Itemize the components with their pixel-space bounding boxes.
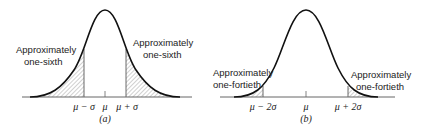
- panel-b: Approximately one-fortieth Approximately…: [213, 10, 411, 125]
- tick-mu-minus-sigma: μ − σ: [72, 101, 96, 112]
- tick-mu-plus-sigma: μ + σ: [115, 101, 139, 112]
- normal-distribution-figure: Approximately one-sixth Approximately on…: [0, 0, 425, 131]
- annotation-right-line2: one-sixth: [143, 49, 182, 60]
- annotation-right-line1: Approximately: [133, 37, 193, 48]
- caption-a: (a): [99, 113, 111, 125]
- annotation-right-line1: Approximately: [351, 69, 411, 80]
- panel-a: Approximately one-sixth Approximately on…: [16, 10, 193, 125]
- tick-mu-plus-2sigma: μ + 2σ: [334, 101, 363, 112]
- tick-mu: μ: [101, 101, 107, 112]
- annotation-left-line2: one-fortieth: [213, 79, 261, 90]
- annotation-right-line2: one-fortieth: [356, 81, 404, 92]
- tick-mu-minus-2sigma: μ − 2σ: [249, 101, 278, 112]
- annotation-left-line1: Approximately: [213, 67, 273, 78]
- caption-b: (b): [300, 113, 312, 125]
- tick-mu: μ: [302, 101, 308, 112]
- annotation-left-line1: Approximately: [16, 44, 76, 55]
- annotation-left-line2: one-sixth: [24, 56, 63, 67]
